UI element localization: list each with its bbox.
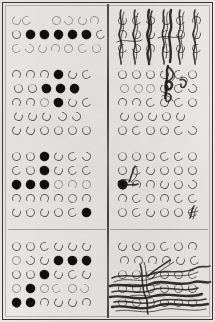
bubble-open[interactable] <box>67 179 77 189</box>
bubble-open[interactable] <box>145 97 157 109</box>
bubble-open[interactable] <box>186 124 199 137</box>
bubble-open[interactable] <box>38 96 50 108</box>
bubble-filled[interactable] <box>25 179 36 190</box>
bubble-filled[interactable] <box>25 283 36 294</box>
bubble-filled[interactable] <box>81 29 92 40</box>
bubble-open[interactable] <box>173 241 183 251</box>
bubble-open[interactable] <box>117 151 127 161</box>
bubble-open[interactable] <box>11 43 23 55</box>
bubble-filled[interactable] <box>53 69 64 80</box>
bubble-open[interactable] <box>50 43 60 53</box>
bubble-open[interactable] <box>77 15 88 26</box>
bubble-open[interactable] <box>117 165 127 175</box>
bubble-open[interactable] <box>25 69 35 79</box>
bubble-open[interactable] <box>11 69 21 79</box>
bubble-open[interactable] <box>187 269 199 281</box>
bubble-open[interactable] <box>131 97 141 107</box>
bubble-open[interactable] <box>131 125 143 137</box>
bubble-open[interactable] <box>81 241 92 252</box>
bubble-open[interactable] <box>39 207 50 218</box>
bubble-open[interactable] <box>23 42 36 55</box>
bubble-open[interactable] <box>117 297 127 307</box>
bubble-open[interactable] <box>159 297 169 307</box>
bubble-open[interactable] <box>187 207 199 219</box>
bubble-open[interactable] <box>131 283 141 293</box>
bubble-open[interactable] <box>144 14 157 27</box>
bubble-open[interactable] <box>175 111 186 122</box>
bubble-open[interactable] <box>118 82 130 94</box>
bubble-filled[interactable] <box>55 83 66 94</box>
bubble-open[interactable] <box>53 269 64 280</box>
bubble-filled[interactable] <box>10 296 22 308</box>
bubble-open[interactable] <box>173 283 183 293</box>
bubble-open[interactable] <box>39 193 49 203</box>
bubble-open[interactable] <box>117 69 127 79</box>
bubble-open[interactable] <box>187 97 197 107</box>
bubble-open[interactable] <box>77 43 89 55</box>
bubble-open[interactable] <box>159 179 170 190</box>
bubble-open[interactable] <box>24 254 37 267</box>
bubble-open[interactable] <box>159 69 170 80</box>
bubble-open[interactable] <box>159 283 169 293</box>
bubble-filled[interactable] <box>52 28 64 40</box>
bubble-open[interactable] <box>25 207 35 217</box>
bubble-open[interactable] <box>10 282 22 294</box>
bubble-open[interactable] <box>81 193 91 203</box>
bubble-open[interactable] <box>67 269 79 281</box>
bubble-open[interactable] <box>159 241 171 253</box>
bubble-open[interactable] <box>159 151 171 163</box>
bubble-open[interactable] <box>175 255 186 266</box>
bubble-open[interactable] <box>131 151 141 161</box>
bubble-open[interactable] <box>25 125 36 136</box>
bubble-open[interactable] <box>11 15 22 26</box>
bubble-open[interactable] <box>131 179 141 189</box>
bubble-open[interactable] <box>67 297 78 308</box>
bubble-open[interactable] <box>173 125 185 137</box>
bubble-open[interactable] <box>25 151 35 161</box>
bubble-open[interactable] <box>173 165 183 175</box>
bubble-filled[interactable] <box>39 29 50 40</box>
bubble-open[interactable] <box>53 193 63 203</box>
bubble-open[interactable] <box>119 111 130 122</box>
bubble-filled[interactable] <box>25 29 36 40</box>
bubble-open[interactable] <box>67 241 78 252</box>
bubble-open[interactable] <box>21 15 33 27</box>
bubble-open[interactable] <box>187 69 197 79</box>
bubble-open[interactable] <box>187 193 199 205</box>
bubble-open[interactable] <box>131 297 141 307</box>
bubble-open[interactable] <box>11 269 21 279</box>
bubble-open[interactable] <box>117 15 128 26</box>
bubble-open[interactable] <box>131 69 141 79</box>
bubble-filled[interactable] <box>39 179 50 190</box>
bubble-open[interactable] <box>132 82 144 94</box>
bubble-open[interactable] <box>145 283 155 293</box>
bubble-filled[interactable] <box>39 151 50 162</box>
bubble-open[interactable] <box>174 28 187 41</box>
bubble-open[interactable] <box>175 15 187 27</box>
bubble-filled[interactable] <box>81 207 92 218</box>
bubble-open[interactable] <box>89 15 99 25</box>
bubble-filled[interactable] <box>39 269 50 280</box>
bubble-open[interactable] <box>81 69 93 81</box>
bubble-open[interactable] <box>10 254 22 266</box>
bubble-open[interactable] <box>53 151 64 162</box>
bubble-open[interactable] <box>11 193 21 203</box>
bubble-open[interactable] <box>25 269 35 279</box>
bubble-open[interactable] <box>78 282 91 295</box>
bubble-open[interactable] <box>147 255 157 265</box>
bubble-open[interactable] <box>144 82 156 94</box>
bubble-open[interactable] <box>81 269 92 280</box>
bubble-open[interactable] <box>67 69 78 80</box>
bubble-open[interactable] <box>145 165 156 176</box>
bubble-open[interactable] <box>145 297 155 307</box>
bubble-open[interactable] <box>11 29 21 39</box>
bubble-open[interactable] <box>39 297 49 307</box>
bubble-open[interactable] <box>159 97 170 108</box>
bubble-open[interactable] <box>186 82 199 95</box>
bubble-open[interactable] <box>117 193 127 203</box>
bubble-open[interactable] <box>39 125 49 135</box>
bubble-filled[interactable] <box>68 82 80 94</box>
bubble-filled[interactable] <box>80 254 92 266</box>
bubble-open[interactable] <box>173 179 183 189</box>
bubble-open[interactable] <box>62 14 75 27</box>
